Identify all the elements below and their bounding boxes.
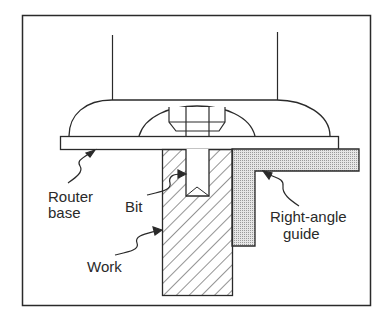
work-leader-arrow [115, 227, 162, 255]
label-router-base-line1: Router [48, 188, 93, 205]
label-work: Work [87, 258, 122, 275]
router-base-plate [61, 137, 339, 150]
label-right-angle-guide-line1: Right-angle [270, 208, 347, 225]
label-right-angle-guide-line2: guide [283, 225, 320, 242]
router-bit [186, 149, 209, 196]
router-base-leader-arrow [68, 150, 95, 183]
label-bit: Bit [125, 198, 143, 215]
guide-leader-arrow [263, 171, 299, 206]
label-router-base-line2: base [48, 204, 81, 221]
router-diagram: Router base Bit Right-angle guide Work [0, 0, 387, 324]
